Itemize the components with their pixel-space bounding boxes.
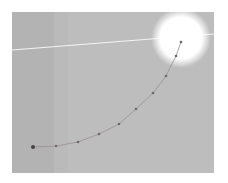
- trajectory-point: [165, 75, 168, 78]
- sun-icon: [151, 12, 211, 68]
- trajectory-point: [98, 133, 101, 136]
- trajectory-point: [180, 41, 183, 44]
- trajectory-point: [175, 55, 178, 58]
- trajectory-point: [77, 141, 80, 144]
- sun-path-overlay: [12, 12, 214, 173]
- trajectory-point: [135, 108, 138, 111]
- trajectory-point: [152, 92, 155, 95]
- trajectory-point: [118, 123, 121, 126]
- trajectory-point: [55, 145, 58, 148]
- trajectory-point: [31, 145, 35, 149]
- sky-photo: [12, 12, 214, 173]
